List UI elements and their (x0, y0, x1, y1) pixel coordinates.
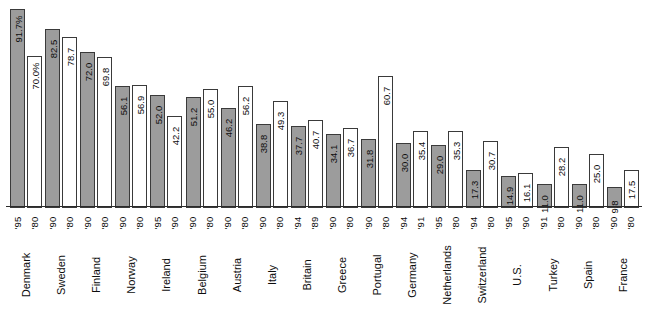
year-tick-label: '80 (27, 210, 42, 236)
bar-value-label: 56.1 (119, 97, 129, 116)
bar-chart: 91.7%70.0%82.578.772.069.856.156.952.042… (0, 0, 652, 311)
country-tick-label: Germany (396, 240, 428, 310)
year-tick-label: '91 (413, 210, 428, 236)
country-tick-label: Denmark (10, 240, 42, 310)
bar-group: 14.916.1 (501, 2, 533, 208)
country-tick-label: Spain (572, 240, 604, 310)
country-tick-label: Norway (115, 240, 147, 310)
year-tick-label: '80 (483, 210, 498, 236)
bar-value-label: 56.9 (136, 96, 146, 115)
country-tick-label: Netherlands (431, 240, 463, 310)
bar-gray-ireland: 52.0 (150, 95, 165, 208)
axis-group: '95'90U.S. (501, 208, 533, 311)
bar-value-label: 91.7% (14, 16, 24, 43)
country-tick-label: Finland (80, 240, 112, 310)
bar-white-austria: 56.2 (238, 86, 253, 208)
country-tick-label: Greece (326, 240, 358, 310)
bar-value-label: 31.8 (365, 150, 375, 169)
axis-group: '95'90Ireland (150, 208, 182, 311)
bar-value-label: 40.7 (312, 131, 322, 150)
bar-group: 51.255.0 (186, 2, 218, 208)
bar-value-label: 28.2 (557, 158, 567, 177)
year-tick-label: '80 (554, 210, 569, 236)
bar-value-label: 42.2 (171, 127, 181, 146)
year-tick-label: '90 (115, 210, 130, 236)
bar-value-label: 30.7 (487, 152, 497, 171)
bar-value-label: 56.2 (241, 97, 251, 116)
bar-value-label: 46.2 (224, 119, 234, 138)
bar-value-label: 37.7 (295, 137, 305, 156)
axis-group: '90'80Finland (80, 208, 112, 311)
bar-value-label: 35.3 (452, 142, 462, 161)
bar-group: 9.817.5 (607, 2, 639, 208)
bar-gray-switzerland: 17.3 (466, 170, 481, 208)
year-tick-label: '80 (97, 210, 112, 236)
axis-group: '90'80France (607, 208, 639, 311)
bar-white-turkey: 28.2 (554, 147, 569, 208)
bar-white-spain: 25.0 (589, 154, 604, 208)
bar-group: 91.7%70.0% (10, 2, 42, 208)
bar-value-label: 29.0 (435, 156, 445, 175)
country-tick-label: Britain (291, 240, 323, 310)
bar-value-label: 16.1 (522, 184, 532, 203)
bar-white-netherlands: 35.3 (448, 131, 463, 208)
bar-white-britain: 40.7 (308, 120, 323, 208)
bar-group: 17.330.7 (466, 2, 498, 208)
bar-group: 30.035.4 (396, 2, 428, 208)
axis-group: '94'91Germany (396, 208, 428, 311)
bar-gray-sweden: 82.5 (45, 29, 60, 208)
year-tick-label: '80 (203, 210, 218, 236)
year-tick-label: '95 (501, 210, 516, 236)
year-tick-label: '80 (238, 210, 253, 236)
year-tick-label: '80 (62, 210, 77, 236)
country-tick-label: U.S. (501, 240, 533, 310)
axis-group: '94'80Switzerland (466, 208, 498, 311)
bar-value-label: 69.8 (101, 68, 111, 87)
bar-group: 29.035.3 (431, 2, 463, 208)
bar-gray-turkey: 11.0 (537, 184, 552, 208)
bar-value-label: 55.0 (206, 100, 216, 119)
axis-group: '90'80Spain (572, 208, 604, 311)
year-tick-label: '80 (132, 210, 147, 236)
bar-value-label: 25.0 (592, 165, 602, 184)
country-tick-label: Turkey (537, 240, 569, 310)
year-tick-label: '80 (343, 210, 358, 236)
bar-white-sweden: 78.7 (62, 37, 77, 208)
year-tick-label: '90 (167, 210, 182, 236)
bar-gray-italy: 38.8 (256, 124, 271, 208)
bar-group: 46.256.2 (221, 2, 253, 208)
year-tick-label: '90 (572, 210, 587, 236)
year-tick-label: '90 (607, 210, 622, 236)
country-tick-label: Portugal (361, 240, 393, 310)
country-tick-label: Ireland (150, 240, 182, 310)
bar-value-label: 82.5 (49, 40, 59, 59)
year-tick-label: '91 (537, 210, 552, 236)
x-axis-baseline (6, 206, 642, 207)
year-tick-label: '80 (589, 210, 604, 236)
year-tick-label: '90 (256, 210, 271, 236)
year-tick-label: '90 (361, 210, 376, 236)
bar-white-denmark: 70.0% (27, 56, 42, 208)
axis-group: '95'80Netherlands (431, 208, 463, 311)
bar-gray-germany: 30.0 (396, 143, 411, 208)
country-tick-label: Belgium (186, 240, 218, 310)
country-tick-label: Switzerland (466, 240, 498, 310)
axis-group: '90'80Portugal (361, 208, 393, 311)
axis-group: '90'80Greece (326, 208, 358, 311)
bar-gray-denmark: 91.7% (10, 9, 25, 208)
year-tick-label: '80 (624, 210, 639, 236)
bar-group: 82.578.7 (45, 2, 77, 208)
bar-value-label: 49.3 (276, 112, 286, 131)
axis-group: '90'80Sweden (45, 208, 77, 311)
axis-group: '90'80Italy (256, 208, 288, 311)
bar-value-label: 35.4 (417, 142, 427, 161)
bar-gray-france: 9.8 (607, 187, 622, 208)
year-tick-label: '89 (308, 210, 323, 236)
year-tick-label: '80 (448, 210, 463, 236)
year-tick-label: '90 (221, 210, 236, 236)
country-tick-label: Italy (256, 240, 288, 310)
bar-gray-portugal: 31.8 (361, 139, 376, 208)
bar-value-label: 78.7 (66, 48, 76, 67)
bar-gray-belgium: 51.2 (186, 97, 201, 208)
x-axis-labels: '95'80Denmark'90'80Sweden'90'80Finland'9… (0, 208, 652, 311)
